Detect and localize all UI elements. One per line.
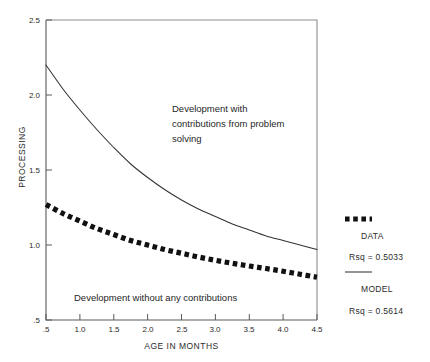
annotation-with-contributions: Development with contributions from prob… xyxy=(172,101,284,146)
legend-label-data: DATA xyxy=(361,231,384,241)
axis-frame xyxy=(46,20,317,320)
annotation-line: Development without any contributions xyxy=(74,290,237,305)
legend-label-model: MODEL xyxy=(361,284,393,294)
series-line-data xyxy=(46,205,317,278)
legend-rsq-model: Rsq = 0.5614 xyxy=(349,306,403,316)
annotation-line: Development with xyxy=(172,101,284,116)
legend-rsq-data: Rsq = 0.5033 xyxy=(349,252,403,262)
annotation-line: contributions from problem xyxy=(172,116,284,131)
annotation-line: solving xyxy=(172,131,284,146)
x-axis-ticks xyxy=(46,314,317,320)
chart-figure: PROCESSING AGE IN MONTHS 2.5 2.0 1.5 1.0… xyxy=(0,0,430,362)
legend-swatches xyxy=(345,219,372,272)
annotation-without-contributions: Development without any contributions xyxy=(74,290,237,305)
y-axis-ticks xyxy=(46,20,52,320)
